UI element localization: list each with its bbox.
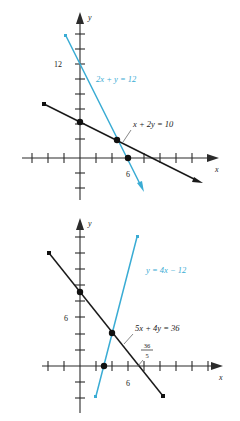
top-x-axis-arrow — [207, 154, 219, 162]
top-line-black-endcap — [42, 102, 46, 106]
bottom-x-axis-label: x — [218, 373, 223, 382]
bottom-point-intersection — [109, 330, 115, 336]
bottom-y-axis-label: y — [87, 219, 92, 228]
bottom-line-blue-arrow — [136, 235, 139, 238]
figure-page: y x 12 6 2x + y = 12 x + 2y = 10 — [0, 0, 240, 421]
top-y-axis-label: y — [87, 13, 92, 22]
top-equation-black-leader — [123, 130, 131, 142]
top-line-blue — [66, 36, 141, 186]
top-x-tick-label-6: 6 — [126, 170, 130, 179]
top-y-tick-label-12: 12 — [54, 60, 62, 69]
bottom-x-axis-arrow — [211, 362, 223, 370]
top-line-blue-arrow — [137, 181, 144, 192]
figure-top: y x 12 6 2x + y = 12 x + 2y = 10 — [0, 0, 240, 210]
bottom-y-tick-label-6: 6 — [64, 314, 68, 323]
bottom-point-blue-x-intercept — [101, 363, 107, 369]
bottom-line-black-arrow — [161, 394, 165, 398]
top-point-x-intercept — [125, 155, 131, 161]
bottom-equation-blue-label: y = 4x − 12 — [145, 265, 187, 275]
fraction-numerator: 36 — [144, 342, 151, 349]
top-point-intersection — [114, 137, 120, 143]
top-equation-black-label: x + 2y = 10 — [132, 119, 174, 129]
top-line-black-arrow — [192, 177, 203, 183]
bottom-chart-svg: y x 6 6 y = 4x − 12 5x + 4y = 36 36 5 — [0, 210, 240, 421]
top-line-black — [44, 104, 196, 180]
top-x-axis-label: x — [214, 165, 219, 174]
top-equation-blue-label: 2x + y = 12 — [96, 74, 137, 84]
bottom-point-y-intercept — [77, 289, 83, 295]
bottom-equation-black-leader — [124, 334, 133, 344]
bottom-line-blue-endcap — [94, 395, 97, 398]
fraction-leader — [138, 360, 143, 366]
figure-bottom: y x 6 6 y = 4x − 12 5x + 4y = 36 36 5 — [0, 210, 240, 421]
bottom-line-blue — [96, 237, 137, 396]
top-point-y-intercept — [77, 119, 83, 125]
fraction-denominator: 5 — [145, 352, 148, 359]
bottom-x-tick-label-6: 6 — [126, 379, 130, 388]
bottom-line-black-endcap — [47, 251, 51, 255]
top-y-axis-arrow — [76, 12, 84, 24]
top-line-blue-endcap — [64, 34, 67, 37]
bottom-equation-black-label: 5x + 4y = 36 — [135, 323, 180, 333]
top-chart-svg: y x 12 6 2x + y = 12 x + 2y = 10 — [0, 0, 240, 210]
bottom-fraction-annotation: 36 5 — [138, 342, 153, 366]
bottom-y-axis-arrow — [76, 218, 84, 230]
